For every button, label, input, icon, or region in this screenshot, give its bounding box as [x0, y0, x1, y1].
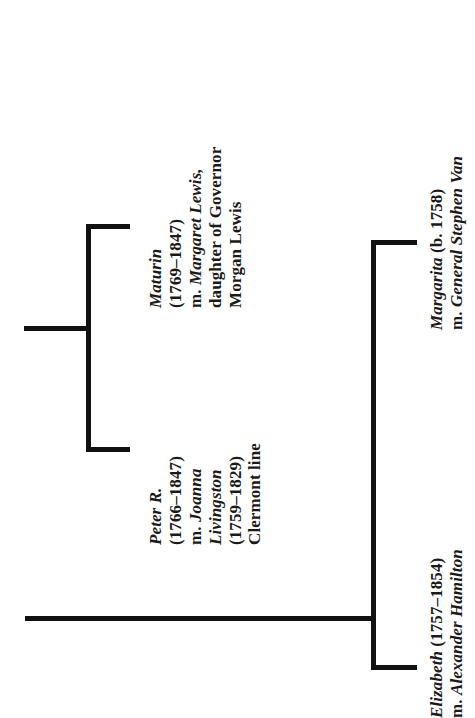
maturin-spouse-desc-2: Morgan Lewis [226, 147, 246, 308]
genealogy-chart: Maturin (1769–1847) m. Margaret Lewis, d… [0, 0, 475, 718]
right-bracket-arm-bottom [371, 665, 417, 670]
left-bracket-spine [86, 224, 91, 452]
elizabeth-spouse-name: Alexander Hamilton [447, 549, 466, 695]
elizabeth-name-line: Elizabeth (1757–1854) [427, 549, 447, 718]
maturin-dates: (1769–1847) [166, 147, 186, 308]
maturin-spouse-line: m. Margaret Lewis, [186, 147, 206, 308]
peter-marriage-prefix: m. [186, 522, 205, 545]
margarita-name-line: Margarita (b. 1758) [427, 156, 447, 330]
margarita-spouse-name: General Stephen Van [447, 156, 466, 307]
margarita-dates: (b. 1758) [427, 189, 446, 253]
left-bracket-arm-bottom [86, 447, 130, 452]
maturin-spouse-name: Margaret Lewis, [186, 168, 205, 285]
peter-spouse-dates: (1759–1829) [226, 443, 246, 545]
person-entry-peter-r: Peter R. (1766–1847) m. Joanna Livingsto… [146, 443, 265, 545]
maturin-name: Maturin [146, 147, 166, 308]
peter-dates: (1766–1847) [166, 443, 186, 545]
left-bracket-input-stub [24, 326, 90, 331]
person-entry-elizabeth: Elizabeth (1757–1854) m. Alexander Hamil… [427, 549, 467, 718]
peter-line-note: Clermont line [245, 443, 265, 545]
right-bracket-spine [371, 240, 376, 670]
peter-spouse-firstname: Joanna [186, 469, 205, 523]
person-entry-maturin: Maturin (1769–1847) m. Margaret Lewis, d… [146, 147, 245, 308]
peter-name: Peter R. [146, 443, 166, 545]
left-bracket-arm-top [86, 224, 130, 229]
main-horizontal-trunk [25, 616, 376, 621]
right-bracket-arm-top [371, 240, 417, 245]
peter-spouse-line: m. Joanna [186, 443, 206, 545]
margarita-name: Margarita [427, 253, 446, 330]
maturin-marriage-prefix: m. [186, 285, 205, 308]
peter-spouse-surname: Livingston [206, 443, 226, 545]
elizabeth-marriage-prefix: m. [447, 695, 466, 718]
maturin-spouse-desc-1: daughter of Governor [206, 147, 226, 308]
margarita-marriage-prefix: m. [447, 307, 466, 330]
elizabeth-name: Elizabeth [427, 647, 446, 718]
margarita-spouse-line: m. General Stephen Van [447, 156, 467, 330]
elizabeth-spouse-line: m. Alexander Hamilton [447, 549, 467, 718]
elizabeth-dates: (1757–1854) [427, 558, 446, 647]
person-entry-margarita: Margarita (b. 1758) m. General Stephen V… [427, 156, 467, 330]
